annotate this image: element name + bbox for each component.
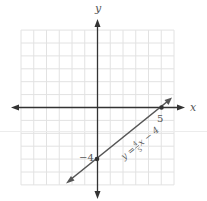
- plotted-line: [66, 98, 172, 184]
- x-intercept-point: [159, 105, 164, 110]
- y-intercept-point: [95, 157, 100, 162]
- x-intercept-label: 5: [157, 113, 163, 124]
- x-axis-label: x: [190, 101, 197, 114]
- x-axis-right-arrow-icon: [177, 105, 185, 111]
- y-axis-label: y: [94, 2, 102, 15]
- y-intercept-label: −4: [79, 152, 94, 163]
- y-axis-bottom-arrow-icon: [95, 191, 101, 199]
- x-axis-left-arrow-icon: [11, 105, 19, 111]
- coordinate-graph: x y 5 −4 y = 4 5 x − 4: [0, 0, 207, 201]
- equation-label: y = 4 5 x − 4: [117, 123, 163, 164]
- y-axis-top-arrow-icon: [95, 19, 101, 27]
